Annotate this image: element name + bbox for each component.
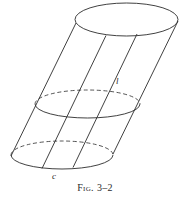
generator-lines [11, 21, 178, 169]
bottom-ellipse [11, 141, 113, 169]
generator-right-outline [113, 21, 178, 154]
caption-prefix: Fig. [77, 182, 94, 193]
top-ellipse-outline [75, 3, 178, 36]
middle-ellipse [35, 90, 140, 118]
oblique-cylinder-drawing [0, 0, 190, 200]
middle-ellipse-back-arc [35, 90, 140, 104]
figure-page: l c Fig.3–2 [0, 0, 190, 200]
bottom-ellipse-back-arc [11, 141, 113, 155]
caption-number: 3–2 [97, 182, 113, 193]
bottom-ellipse-front-arc [11, 155, 113, 169]
generator-left-outline [11, 23, 76, 156]
directrix-label-c: c [52, 172, 56, 181]
generator-inner-2 [73, 34, 137, 168]
middle-ellipse-front-arc [35, 104, 140, 118]
top-ellipse [75, 3, 178, 36]
generator-inner-1 [42, 36, 106, 169]
generator-label-l: l [116, 77, 119, 86]
figure-caption: Fig.3–2 [0, 182, 190, 193]
